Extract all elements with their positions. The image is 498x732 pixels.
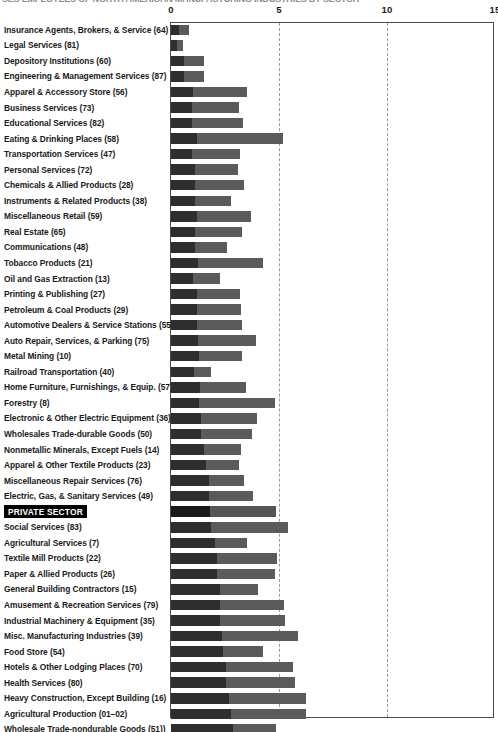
bar-segment-a [171, 569, 217, 580]
bar-row[interactable]: Metal Mining (10) [0, 348, 498, 364]
bar-segment-a [171, 413, 201, 424]
bar [171, 709, 306, 720]
bar-row[interactable]: Instruments & Related Products (38) [0, 193, 498, 209]
bar-row-label: Agricultural Production (01–02) [0, 709, 166, 719]
bar-row[interactable]: Engineering & Management Services (87) [0, 69, 498, 85]
bar-row[interactable]: Petroleum & Coal Products (29) [0, 302, 498, 318]
bar [171, 569, 275, 580]
bar-segment-a [171, 460, 206, 471]
bar-row[interactable]: Printing & Publishing (27) [0, 286, 498, 302]
bar-segment-a [171, 646, 223, 657]
bar-segment-a [171, 724, 233, 732]
bar-row[interactable]: Health Services (80) [0, 675, 498, 691]
bar-row[interactable]: Wholesales Trade-durable Goods (50) [0, 426, 498, 442]
bar-row-label: Industrial Machinery & Equipment (35) [0, 616, 166, 626]
bar-row[interactable]: Agricultural Production (01–02) [0, 706, 498, 722]
bar-row-label: Chemicals & Allied Products (28) [0, 180, 166, 190]
bar-row-label: Legal Services (81) [0, 40, 166, 50]
bar-row-label: Misc. Manufacturing Industries (39) [0, 631, 166, 641]
bar-row-private-sector[interactable]: PRIVATE SECTOR [0, 504, 498, 520]
bar [171, 102, 239, 113]
bar-segment-a [171, 149, 192, 160]
bar-segment-b [197, 320, 242, 331]
bar-row[interactable]: Social Services (83) [0, 520, 498, 536]
bar [171, 646, 263, 657]
bar-segment-a [171, 87, 193, 98]
bar-row[interactable]: Paper & Allied Products (26) [0, 566, 498, 582]
bar-row[interactable]: Personal Services (72) [0, 162, 498, 178]
bar-segment-a [171, 398, 199, 409]
bar [171, 584, 258, 595]
bar-row[interactable]: Eating & Drinking Places (58) [0, 131, 498, 147]
bar-row-label: Nonmetallic Minerals, Except Fuels (14) [0, 445, 166, 455]
bar-row-label: Electronic & Other Electric Equipment (3… [0, 413, 166, 423]
bar-row[interactable]: General Building Contractors (15) [0, 582, 498, 598]
bar-segment-b [179, 25, 190, 36]
bar [171, 118, 243, 129]
bar-row[interactable]: Food Store (54) [0, 644, 498, 660]
bar [171, 242, 227, 253]
bar-row[interactable]: Apparel & Accessory Store (56) [0, 84, 498, 100]
bar [171, 196, 231, 207]
bar-segment-a [171, 693, 229, 704]
bar-row[interactable]: Misc. Manufacturing Industries (39) [0, 628, 498, 644]
bar [171, 289, 240, 300]
bar-row[interactable]: Nonmetallic Minerals, Except Fuels (14) [0, 442, 498, 458]
bar-row[interactable]: Railroad Transportation (40) [0, 364, 498, 380]
bar-segment-b [195, 164, 238, 175]
bar-row[interactable]: Auto Repair, Services, & Parking (75) [0, 333, 498, 349]
bar-row[interactable]: Miscellaneous Repair Services (76) [0, 473, 498, 489]
bar-row[interactable]: Business Services (73) [0, 100, 498, 116]
bar-row[interactable]: Miscellaneous Retail (59) [0, 209, 498, 225]
bar-row[interactable]: Amusement & Recreation Services (79) [0, 597, 498, 613]
bar-segment-a [171, 102, 192, 113]
bar-row[interactable]: Depository Institutions (60) [0, 53, 498, 69]
bar-row[interactable]: Wholesale Trade-nondurable Goods (51)) [0, 722, 498, 732]
bar [171, 413, 257, 424]
bar-row[interactable]: Transportation Services (47) [0, 146, 498, 162]
bar-row[interactable]: Insurance Agents, Brokers, & Service (64… [0, 22, 498, 38]
bar-row[interactable]: Chemicals & Allied Products (28) [0, 177, 498, 193]
bar-row[interactable]: Industrial Machinery & Equipment (35) [0, 613, 498, 629]
bar-row[interactable]: Tobacco Products (21) [0, 255, 498, 271]
bar-segment-a [171, 180, 195, 191]
bar-row[interactable]: Home Furniture, Furnishings, & Equip. (5… [0, 380, 498, 396]
bar-row[interactable]: Oil and Gas Extraction (13) [0, 271, 498, 287]
bar-row[interactable]: Heavy Construction, Except Building (16) [0, 691, 498, 707]
bar-row[interactable]: Electronic & Other Electric Equipment (3… [0, 411, 498, 427]
bar-row[interactable]: Real Estate (65) [0, 224, 498, 240]
bar-row-label: PRIVATE SECTOR [4, 505, 87, 518]
bar-row[interactable]: Textile Mill Products (22) [0, 551, 498, 567]
bar [171, 382, 246, 393]
bar-segment-a [171, 304, 197, 315]
bar-row-label: Health Services (80) [0, 678, 166, 688]
bar [171, 398, 275, 409]
bar-segment-b [209, 475, 245, 486]
bar-row[interactable]: Communications (48) [0, 240, 498, 256]
bar-segment-b [233, 724, 276, 732]
bar-row[interactable]: Educational Services (82) [0, 115, 498, 131]
bar-segment-a [171, 164, 195, 175]
bar-segment-a [171, 382, 200, 393]
bar-row[interactable]: Agricultural Services (7) [0, 535, 498, 551]
bar-row-label: Personal Services (72) [0, 165, 166, 175]
bar [171, 600, 284, 611]
bar-segment-a [171, 677, 226, 688]
bar [171, 149, 240, 160]
bar-row-label: Wholesale Trade-nondurable Goods (51)) [0, 724, 166, 732]
bar [171, 71, 204, 82]
bar-segment-a [171, 211, 197, 222]
bar-row[interactable]: Electric, Gas, & Sanitary Services (49) [0, 488, 498, 504]
bar-row-label: Metal Mining (10) [0, 351, 166, 361]
bar-segment-b [217, 569, 274, 580]
bar-segment-a [171, 444, 204, 455]
bar-segment-b [223, 646, 263, 657]
bar-segment-b [201, 413, 257, 424]
bar-row[interactable]: Automotive Dealers & Service Stations (5… [0, 317, 498, 333]
bar-row[interactable]: Apparel & Other Textile Products (23) [0, 457, 498, 473]
bar-row[interactable]: Hotels & Other Lodging Places (70) [0, 659, 498, 675]
bar-row-label: Miscellaneous Retail (59) [0, 211, 166, 221]
bar-row[interactable]: Legal Services (81) [0, 38, 498, 54]
bar-row[interactable]: Forestry (8) [0, 395, 498, 411]
bar-segment-a [171, 662, 226, 673]
